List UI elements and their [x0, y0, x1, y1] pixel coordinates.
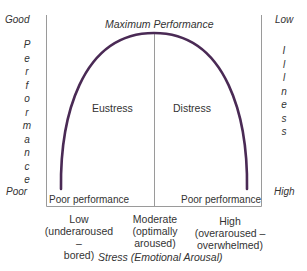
x-tick-moderate: Moderate (optimally aroused) [125, 213, 185, 249]
tick-line: (underaroused – [41, 225, 117, 249]
letter: f [19, 79, 35, 93]
right-axis-bottom-label: High [274, 186, 295, 197]
letter: s [276, 125, 292, 139]
eustress-label: Eustress [92, 102, 133, 114]
letter: l [276, 71, 292, 85]
letter: e [276, 98, 292, 112]
left-axis-bottom-label: Poor [6, 186, 27, 197]
x-axis-title: Stress (Emotional Arousal) [98, 251, 223, 263]
tick-line: High [190, 215, 270, 227]
letter: m [19, 119, 35, 133]
left-axis-top-label: Good [5, 14, 29, 25]
poor-performance-left-label: Poor performance [49, 194, 129, 205]
tick-line: overwhelmed) [190, 239, 270, 251]
x-tick-high: High (overaroused – overwhelmed) [190, 215, 270, 251]
tick-line: (overaroused – [190, 227, 270, 239]
letter: n [276, 85, 292, 99]
peak-label: Maximum Performance [105, 18, 214, 30]
tick-line: Moderate [125, 213, 185, 225]
letter: o [19, 92, 35, 106]
right-axis-title: I l l n e s s [276, 44, 292, 139]
letter: r [19, 65, 35, 79]
letter: P [19, 38, 35, 52]
letter: a [19, 133, 35, 147]
tick-line: Low [41, 213, 117, 225]
letter: I [276, 44, 292, 58]
left-axis-title: P e r f o r m a n c e [19, 38, 35, 187]
tick-line: (optimally [125, 225, 185, 237]
letter: l [276, 58, 292, 72]
letter: c [19, 160, 35, 174]
letter: e [19, 52, 35, 66]
letter: n [19, 146, 35, 160]
letter: s [276, 112, 292, 126]
poor-performance-right-label: Poor performance [181, 194, 261, 205]
tick-line: aroused) [125, 237, 185, 249]
right-axis-top-label: Low [275, 14, 293, 25]
letter: r [19, 106, 35, 120]
letter: e [19, 173, 35, 187]
distress-label: Distress [173, 102, 211, 114]
